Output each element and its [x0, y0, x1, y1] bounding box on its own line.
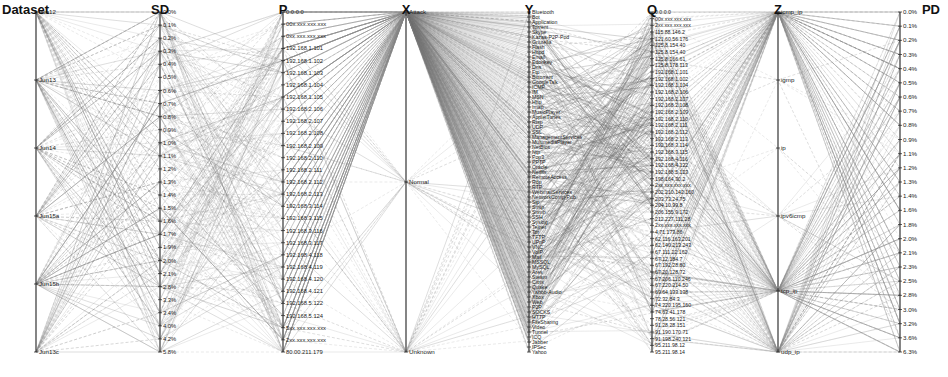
tick-label: 1.2% — [163, 166, 176, 172]
tick-label: 1.9% — [163, 244, 176, 250]
tick-label: 1.8% — [903, 221, 918, 228]
tick-label: 192.168.1.102 — [655, 76, 688, 82]
tick-label: 91.28.28.151 — [655, 322, 685, 328]
tick-label: 0.3% — [163, 48, 176, 54]
tick-label: 1.3% — [163, 179, 176, 185]
tick-label: 192.168.1.102 — [286, 58, 323, 64]
tick-label: 0.4% — [903, 65, 918, 72]
tick-label: 4.71.173.86 — [655, 229, 683, 235]
tick-label: 192.168.2.112 — [286, 179, 323, 185]
tick-label: 192.168.1.104 — [655, 82, 688, 88]
tick-label: 192.168.5.124 — [286, 313, 324, 319]
tick-label: 192.168.2.106 — [286, 106, 323, 112]
tick-label: 125.8.154.40 — [655, 42, 685, 48]
tick-label: 192.168.4.121 — [286, 288, 323, 294]
tick-label: 3.3% — [163, 297, 176, 303]
tick-label: 0.4% — [163, 61, 176, 67]
tick-label: Jun14 — [39, 144, 56, 151]
tick-label: 1.5% — [163, 205, 176, 211]
tick-label: 0.0.0.0 — [286, 9, 304, 15]
tick-label: 0.7% — [163, 101, 176, 107]
axis-p[interactable]: 0.0.0.000x.xxx.xxx.xxx0xx.xxx.xxx.xxx192… — [281, 9, 326, 355]
tick-label: 192.168.1.105 — [286, 94, 323, 100]
tick-label: 67.111.22.162 — [655, 249, 688, 255]
tick-label: 192.168.2.109 — [286, 143, 323, 149]
tick-label: 192.168.2.109 — [655, 109, 688, 115]
tick-label: 2.8% — [163, 284, 176, 290]
tick-label: Yahoo — [532, 349, 547, 355]
tick-label: 78.28.56.121 — [655, 316, 685, 322]
tick-label: 192.168.3.115 — [655, 149, 688, 155]
tick-label: 1.2% — [903, 164, 918, 171]
tick-label: 0.1% — [163, 22, 176, 28]
tick-label: 2xx.xxx.xxx.xxx — [655, 182, 691, 188]
tick-label: Jun13c — [39, 348, 59, 355]
tick-label: 5.8% — [163, 349, 176, 355]
tick-label: 0.5% — [903, 79, 918, 86]
tick-label: 2.1% — [903, 249, 918, 256]
tick-label: 121.60.56.176 — [655, 36, 688, 42]
tick-label: Jun15a — [39, 212, 60, 219]
tick-label: 2.1% — [163, 271, 176, 277]
axis-title-sd: SD — [151, 2, 169, 17]
axis-title-p: P — [279, 2, 288, 17]
tick-label: 1.6% — [903, 206, 918, 213]
plot-area: Jun12Jun13Jun14Jun15aJun15bJun13c0.0%0.1… — [0, 0, 948, 377]
tick-label: Jun13 — [39, 76, 56, 83]
axis-q[interactable]: 0.0.0.000x.xxx.xxx.xxx2xx.xxx.xxx.xxx115… — [650, 9, 694, 355]
tick-label: 2.5% — [903, 277, 918, 284]
tick-label: 192.168.4.116 — [655, 156, 688, 162]
tick-label: 3.6% — [903, 334, 918, 341]
tick-label: 198.164.30.2 — [655, 176, 685, 182]
tick-label: 203.73.24.75 — [655, 196, 685, 202]
tick-label: 6.3% — [903, 348, 918, 355]
tick-label: 202.210.142.160 — [655, 189, 694, 195]
tick-label: 0.6% — [163, 88, 176, 94]
tick-label: 0.9% — [163, 127, 176, 133]
tick-label: 204.10.99.8 — [655, 202, 683, 208]
tick-label: 0.0% — [903, 8, 918, 15]
tick-label: ip — [781, 144, 786, 151]
tick-label: 0.9% — [903, 136, 918, 143]
tick-label: 192.168.3.114 — [286, 203, 323, 209]
tick-label: 192.168.4.118 — [286, 252, 323, 258]
tick-label: 91.198.240.121 — [655, 336, 691, 342]
tick-label: 125.8.154.40 — [655, 49, 685, 55]
tick-label: 192.168.5.122 — [286, 300, 323, 306]
tick-label: 5xx.xxx.xxx.xxx — [286, 325, 326, 331]
tick-label: 1.4% — [903, 192, 918, 199]
tick-label: 69.64.133.138 — [655, 289, 688, 295]
tick-label: 2xx.xxx.xxx.xxx — [655, 22, 691, 28]
tick-label: 67.220.214.50 — [655, 282, 688, 288]
tick-label: 125.8.178.113 — [655, 62, 688, 68]
tick-label: 192.168.4.120 — [286, 276, 323, 282]
tick-label: 2.0% — [903, 235, 918, 242]
axis-title-dataset: Dataset — [2, 2, 49, 17]
tick-label: 125.8.166.61 — [655, 56, 685, 62]
tick-label: 192.168.1.103 — [286, 70, 323, 76]
tick-label: 192.168.2.108 — [286, 130, 323, 136]
tick-label: 0.2% — [903, 36, 918, 43]
tick-label: 192.168.3.115 — [286, 215, 323, 221]
tick-label: 0.1% — [903, 22, 918, 29]
axis-title-x: X — [402, 2, 411, 17]
tick-label: 0.5% — [163, 74, 176, 80]
tick-label: icmp_ip — [781, 8, 803, 15]
axis-pd[interactable]: 0.0%0.1%0.2%0.3%0.4%0.5%0.6%0.7%0.8%0.9%… — [898, 8, 918, 355]
tick-label: 192.168.2.113 — [286, 191, 323, 197]
tick-label: 1.4% — [163, 192, 176, 198]
tick-label: 2.8% — [903, 291, 918, 298]
tick-label: 91.190.170.71 — [655, 329, 688, 335]
tick-label: 192.168.2.111 — [286, 167, 322, 173]
tick-label: 0.3% — [903, 51, 918, 58]
tick-label: 192.168.2.107 — [286, 118, 323, 124]
tick-label: 80.00.211.179 — [286, 349, 323, 355]
tick-label: 212.227.111.28 — [655, 216, 690, 222]
tick-label: 0.7% — [903, 107, 918, 114]
tick-label: Attack — [409, 8, 427, 15]
tick-label: 67.20.128.72 — [655, 269, 685, 275]
tick-label: 192.168.1.104 — [286, 82, 324, 88]
tick-label: 192.168.3.114 — [655, 142, 688, 148]
tick-label: 0.2% — [163, 35, 176, 41]
tick-label: 67.192.28.80 — [655, 262, 685, 268]
